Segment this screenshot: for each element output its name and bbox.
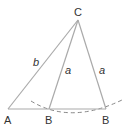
- side-a2-label: a: [99, 64, 105, 76]
- side-a1-label: a: [65, 64, 71, 76]
- vertex-b1-label: B: [45, 114, 52, 126]
- side-b-label: b: [33, 56, 39, 68]
- vertex-a-label: A: [4, 114, 12, 126]
- vertex-c-label: C: [74, 6, 82, 18]
- dashed-arc: [31, 100, 122, 113]
- vertex-b2-label: B: [102, 114, 109, 126]
- triangle-diagram: C A B B b a a: [0, 0, 130, 130]
- side-a-1: [49, 20, 78, 109]
